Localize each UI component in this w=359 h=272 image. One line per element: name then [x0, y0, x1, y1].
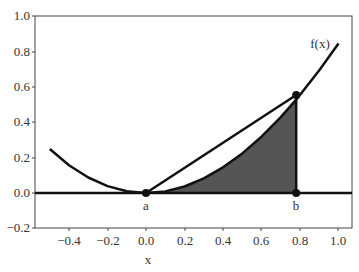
- y-tick-label: 0.8: [14, 44, 30, 59]
- x-axis-label: x: [145, 252, 152, 267]
- x-tick-label: −0.2: [96, 233, 120, 248]
- point-fb: [292, 91, 300, 99]
- x-tick-label: −0.4: [57, 233, 81, 248]
- x-tick-label: 0.8: [292, 233, 308, 248]
- x-tick-label: 0.4: [215, 233, 232, 248]
- x-tick-label: 0.0: [138, 233, 154, 248]
- x-tick-label: 0.6: [253, 233, 270, 248]
- y-tick-label: 0.6: [14, 79, 31, 94]
- y-tick-label: 0.2: [14, 150, 30, 165]
- y-tick-label: 0.0: [14, 185, 30, 200]
- x-tick-label: 1.0: [330, 233, 346, 248]
- point-a: [142, 189, 150, 197]
- y-tick-label: −0.2: [6, 220, 30, 235]
- chart: 1.0 0.8 0.6 0.4 0.2 0.0 −0.2 −0.4 −0.2 0…: [0, 0, 359, 272]
- x-tick-label: 0.2: [177, 233, 193, 248]
- plot-frame: [35, 16, 352, 228]
- y-tick-label: 1.0: [14, 8, 30, 23]
- label-b: b: [293, 198, 300, 213]
- point-b: [292, 189, 300, 197]
- label-a: a: [143, 198, 149, 213]
- label-fx: f(x): [310, 36, 330, 51]
- y-tick-label: 0.4: [14, 114, 31, 129]
